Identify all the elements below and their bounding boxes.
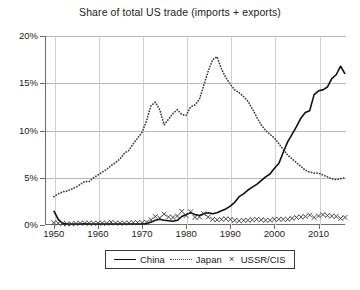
x-axis-tick-mark bbox=[274, 225, 275, 229]
x-axis-tick-mark bbox=[319, 225, 320, 229]
x-axis-tick-label: 1980 bbox=[164, 228, 208, 239]
legend-cross-marker-icon: × bbox=[227, 255, 237, 264]
y-axis-tick-mark bbox=[40, 36, 45, 37]
x-axis-tick-mark bbox=[54, 225, 55, 229]
x-axis-tick-mark bbox=[186, 225, 187, 229]
x-axis-tick-label: 1960 bbox=[76, 228, 120, 239]
legend-solid-line-icon bbox=[114, 259, 136, 260]
chart-container: Share of total US trade (imports + expor… bbox=[0, 0, 360, 290]
legend-entry: ×USSR/CIS bbox=[227, 254, 286, 265]
y-axis-tick-label: 15% bbox=[0, 77, 38, 88]
x-axis-tick-label: 1990 bbox=[208, 228, 252, 239]
y-axis-tick-label: 20% bbox=[0, 30, 38, 41]
x-axis-tick-label: 2000 bbox=[252, 228, 296, 239]
y-axis-tick-mark bbox=[40, 225, 45, 226]
x-axis-tick-label: 2010 bbox=[297, 228, 341, 239]
chart-legend: ChinaJapan×USSR/CIS bbox=[105, 250, 295, 269]
x-axis-tick-mark bbox=[98, 225, 99, 229]
x-axis-tick-mark bbox=[230, 225, 231, 229]
y-axis-tick-mark bbox=[40, 178, 45, 179]
y-axis-tick-mark bbox=[40, 83, 45, 84]
series-china bbox=[54, 66, 345, 224]
legend-dotted-line-icon bbox=[170, 259, 192, 260]
legend-label: Japan bbox=[196, 254, 222, 265]
x-axis-tick-label: 1950 bbox=[32, 228, 76, 239]
x-axis-tick-mark bbox=[142, 225, 143, 229]
y-axis-tick-label: 5% bbox=[0, 172, 38, 183]
legend-label: USSR/CIS bbox=[241, 254, 286, 265]
x-axis-tick-label: 1970 bbox=[120, 228, 164, 239]
y-axis-tick-label: 10% bbox=[0, 125, 38, 136]
series-japan bbox=[54, 57, 345, 197]
legend-label: China bbox=[140, 254, 165, 265]
series-layer bbox=[45, 36, 345, 225]
legend-entry: China bbox=[114, 254, 165, 265]
y-axis-tick-mark bbox=[40, 131, 45, 132]
legend-entry: Japan bbox=[170, 254, 222, 265]
chart-title: Share of total US trade (imports + expor… bbox=[0, 6, 360, 18]
